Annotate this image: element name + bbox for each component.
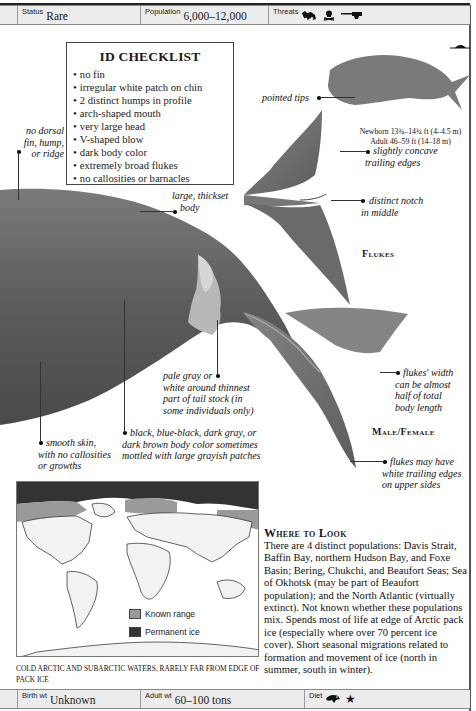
label-smooth-skin: smooth skin, with no callosities or grow… bbox=[38, 437, 111, 472]
stat-bar-bottom: Birth wt Unknown Adult wt 60–100 tons Di… bbox=[0, 689, 470, 709]
label-white-edges: flukes may have white trailing edges on … bbox=[382, 456, 461, 491]
legend-known-range: Known range bbox=[129, 605, 200, 623]
diet-label: Diet bbox=[309, 691, 322, 700]
birth-wt-label: Birth wt bbox=[22, 691, 47, 700]
range-map: Known range Permanent ice bbox=[16, 481, 259, 657]
label-flukes-width: flukes' width can be almost half of tota… bbox=[395, 367, 453, 413]
checklist-item: dark body color bbox=[73, 146, 233, 159]
diver-scale-icon bbox=[450, 45, 470, 48]
harpoon-gun-icon bbox=[341, 10, 363, 20]
label-body-color: black, blue-black, dark gray, or dark br… bbox=[122, 427, 261, 462]
plankton-star-icon: ★ bbox=[345, 692, 356, 707]
where-to-look-body: There are 4 distinct populations: Davis … bbox=[264, 540, 469, 676]
species-page: Status Rare Population 6,000–12,000 Thre… bbox=[0, 0, 476, 711]
status-label: Status bbox=[22, 7, 43, 16]
population-label: Population bbox=[145, 7, 180, 16]
adult-wt-label: Adult wt bbox=[145, 691, 172, 700]
male-female-caption: Male/Female bbox=[372, 426, 435, 437]
adult-wt-cell: Adult wt 60–100 tons bbox=[140, 690, 304, 708]
checklist-item: extremely broad flukes bbox=[73, 159, 233, 172]
population-value: 6,000–12,000 bbox=[183, 10, 246, 22]
threats-cell: Threats bbox=[268, 6, 470, 24]
birth-wt-cell: Birth wt Unknown bbox=[17, 690, 140, 708]
label-thickset: large, thickset body bbox=[172, 190, 228, 213]
size-info: Newborn 13¾–14¾ ft (4–4.5 m) Adult 46–59… bbox=[348, 127, 473, 147]
fishing-vessel-icon bbox=[301, 10, 317, 21]
where-to-look-title: Where to Look bbox=[264, 527, 469, 540]
legend-permanent-ice: Permanent ice bbox=[129, 623, 200, 641]
newborn-size: Newborn 13¾–14¾ ft (4–4.5 m) bbox=[348, 127, 473, 137]
status-cell: Status Rare bbox=[17, 6, 140, 24]
label-no-dorsal: no dorsal fin, hump, or ridge bbox=[16, 125, 64, 160]
checklist-item: V-shaped blow bbox=[73, 133, 233, 146]
id-checklist: ID CHECKLIST no fin irregular white patc… bbox=[66, 42, 234, 185]
checklist-item: arch-shaped mouth bbox=[73, 107, 233, 120]
label-pale-gray: pale gray or white around thinnest part … bbox=[163, 370, 254, 416]
population-cell: Population 6,000–12,000 bbox=[140, 6, 268, 24]
checklist-item: no callosities or barnacles bbox=[73, 172, 233, 185]
checklist-item: 2 distinct humps in profile bbox=[73, 94, 233, 107]
diet-cell: Diet ★ bbox=[304, 690, 470, 708]
checklist-items: no fin irregular white patch on chin 2 d… bbox=[73, 68, 233, 185]
checklist-item: very large head bbox=[73, 120, 233, 133]
flukes-caption: Flukes bbox=[362, 248, 394, 259]
adult-wt-value: 60–100 tons bbox=[175, 694, 232, 706]
map-caption: COLD ARCTIC AND SUBARCTIC WATERS, RARELY… bbox=[16, 663, 266, 685]
pollution-skull-icon bbox=[323, 10, 335, 21]
stat-bar-top: Status Rare Population 6,000–12,000 Thre… bbox=[0, 5, 470, 25]
checklist-item: no fin bbox=[73, 68, 233, 81]
permanent-ice-swatch bbox=[129, 627, 141, 637]
threats-label: Threats bbox=[273, 7, 298, 16]
krill-icon bbox=[325, 694, 341, 704]
checklist-item: irregular white patch on chin bbox=[73, 81, 233, 94]
where-to-look: Where to Look There are 4 distinct popul… bbox=[264, 527, 469, 676]
label-notch: distinct notch in middle bbox=[361, 195, 423, 218]
checklist-title: ID CHECKLIST bbox=[73, 49, 227, 65]
known-range-swatch bbox=[129, 609, 141, 619]
label-pointed-tips: pointed tips bbox=[262, 92, 309, 104]
status-value: Rare bbox=[46, 10, 68, 22]
label-concave: slightly concave trailing edges bbox=[365, 145, 438, 168]
map-legend: Known range Permanent ice bbox=[129, 605, 200, 641]
birth-wt-value: Unknown bbox=[50, 694, 95, 706]
